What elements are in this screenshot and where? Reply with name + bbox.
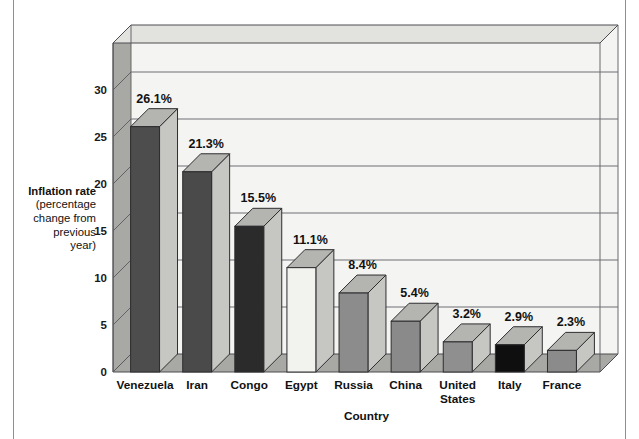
bar-front-face	[131, 127, 160, 372]
bar-front-face	[183, 172, 212, 372]
x-axis-category-label: Italy	[498, 378, 522, 392]
bar-side-face	[212, 154, 230, 372]
plot-left-wall	[113, 25, 131, 372]
bar-iran	[183, 154, 230, 372]
bar-value-label: 2.9%	[505, 310, 534, 324]
y-axis-tick-label: 10	[94, 272, 107, 284]
bar-front-face	[495, 345, 524, 372]
bar-value-label: 15.5%	[241, 191, 276, 205]
y-axis-title-line: previous	[53, 226, 96, 238]
bar-congo	[235, 208, 282, 372]
plot-top-cap	[113, 25, 618, 43]
y-axis-tick-label: 30	[94, 84, 107, 96]
x-axis-category-label: Venezuela	[117, 378, 174, 392]
y-axis-tick-label: 25	[94, 131, 107, 143]
bar-front-face	[287, 268, 316, 372]
x-axis-category-label: Congo	[231, 378, 268, 392]
bar-egypt	[287, 250, 334, 372]
x-axis-category-label: Egypt	[285, 378, 318, 392]
x-axis-category-label: States	[440, 392, 476, 406]
bar-value-label: 21.3%	[188, 137, 223, 151]
bar-value-label: 8.4%	[348, 258, 377, 272]
y-axis-tick-label: 15	[94, 225, 107, 237]
bar-side-face	[316, 250, 334, 372]
y-axis-title-line: Inflation rate	[28, 185, 96, 197]
x-axis-category-label: France	[543, 378, 582, 392]
y-axis-title-line: change from	[33, 212, 96, 224]
x-axis-category-label: Russia	[334, 378, 373, 392]
y-axis-tick-label: 5	[101, 319, 108, 331]
bar-front-face	[339, 293, 368, 372]
x-axis-category-label: Iran	[186, 378, 208, 392]
x-axis-category-label: United	[439, 378, 476, 392]
bar-side-face	[160, 109, 178, 372]
chart-page: 051015202530 26.1%21.3%15.5%11.1%8.4%5.4…	[0, 0, 639, 439]
bar-front-face	[547, 350, 576, 372]
inflation-rate-bar-chart: 051015202530 26.1%21.3%15.5%11.1%8.4%5.4…	[0, 0, 639, 439]
x-axis-category-label: China	[389, 378, 422, 392]
bar-china	[391, 303, 438, 372]
bar-front-face	[391, 321, 420, 372]
y-axis-ticks: 051015202530	[94, 84, 107, 378]
bar-side-face	[264, 208, 282, 372]
bar-value-label: 5.4%	[400, 286, 429, 300]
bar-value-label: 3.2%	[452, 307, 481, 321]
x-axis-title: Country	[344, 409, 390, 423]
bar-front-face	[235, 226, 264, 372]
bar-value-label: 26.1%	[136, 92, 171, 106]
bar-russia	[339, 275, 386, 372]
y-axis-title-line: (percentage	[36, 198, 96, 210]
y-axis-title-line: year)	[70, 239, 96, 251]
bar-value-label: 2.3%	[557, 315, 586, 329]
bar-value-label: 11.1%	[293, 233, 328, 247]
x-axis-category-labels: VenezuelaIranCongoEgyptRussiaChinaUnited…	[117, 378, 582, 406]
y-axis-tick-label: 20	[94, 178, 107, 190]
bar-venezuela	[131, 109, 178, 372]
bar-front-face	[443, 342, 472, 372]
y-axis-tick-label: 0	[101, 366, 107, 378]
